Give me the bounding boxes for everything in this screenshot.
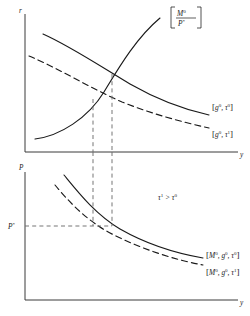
top-panel-x-axis-label: y bbox=[239, 151, 244, 159]
bottom-panel-y-axis-label: P bbox=[18, 164, 24, 172]
bracket-left bbox=[171, 7, 175, 28]
ls-curve-upward bbox=[35, 18, 160, 139]
bottom-panel: P y P* τ1 > τ0 [M0, g0, τ0] [M0, g0, τ1] bbox=[7, 152, 244, 307]
ad-curve-shifted-label: [M0, g0, τ1] bbox=[206, 267, 239, 277]
economics-figure: r y M0 P* [g0, τ0] [g0, τ1] bbox=[0, 0, 250, 316]
ls-curve-label-denominator: P* bbox=[177, 19, 186, 28]
tau-inequality-annotation: τ1 > τ0 bbox=[158, 193, 178, 202]
top-panel-y-axis-label: r bbox=[19, 7, 22, 15]
bottom-panel-x-axis-label: y bbox=[239, 299, 244, 307]
is-curve-baseline-label: [g0, τ0] bbox=[212, 102, 233, 112]
is-curve-shifted-label: [g0, τ1] bbox=[212, 129, 233, 139]
bracket-right bbox=[197, 7, 201, 28]
figure-canvas: r y M0 P* [g0, τ0] [g0, τ1] bbox=[0, 0, 250, 316]
ls-curve-label-bracket: M0 P* bbox=[171, 7, 201, 28]
top-panel: r y M0 P* [g0, τ0] [g0, τ1] bbox=[19, 7, 244, 159]
ad-curve-baseline-label: [M0, g0, τ0] bbox=[206, 250, 239, 260]
ls-curve-label-numerator: M0 bbox=[176, 9, 186, 18]
y-tick-label-pstar: P* bbox=[7, 222, 16, 231]
